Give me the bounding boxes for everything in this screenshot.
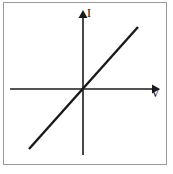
y-axis <box>79 10 88 155</box>
plot-area <box>0 0 173 174</box>
iv-characteristic-figure: I V <box>0 0 173 174</box>
x-axis-label: V <box>151 87 160 99</box>
y-axis-label: I <box>87 7 91 19</box>
